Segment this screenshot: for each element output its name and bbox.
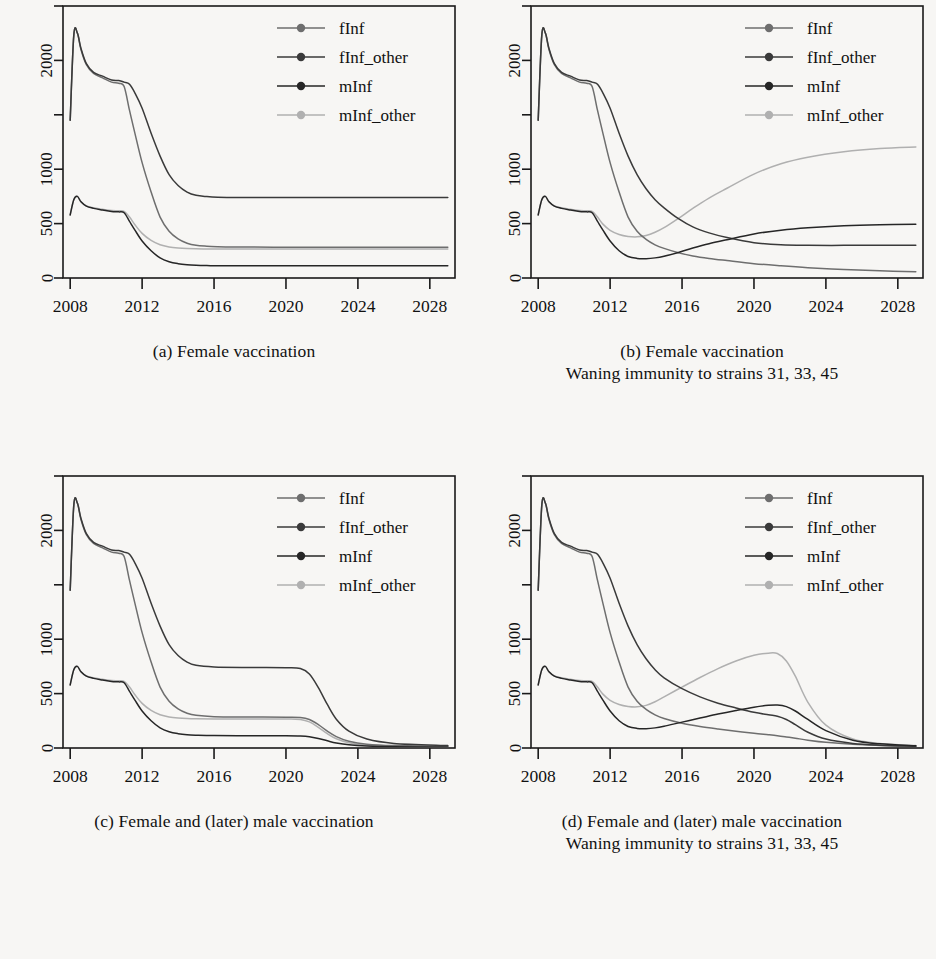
legend-marker-fInf_other [765, 53, 773, 61]
panel-c: 050010002000200820122016202020242028fInf… [0, 470, 468, 959]
y-tick-label: 1000 [38, 152, 57, 186]
y-tick-label: 500 [38, 211, 57, 237]
legend-marker-fInf_other [297, 523, 305, 531]
plot-area-d: 050010002000200820122016202020242028fInf… [468, 470, 936, 810]
y-tick-label: 500 [506, 211, 525, 237]
x-tick-label: 2020 [736, 766, 771, 786]
y-tick-label: 0 [506, 744, 525, 753]
series-line-mInf_other [538, 147, 916, 237]
y-tick-label: 1000 [506, 622, 525, 656]
legend-label-fInf_other: fInf_other [807, 48, 876, 67]
legend-marker-fInf [297, 24, 305, 32]
legend-label-mInf: mInf [339, 547, 372, 566]
legend-marker-mInf_other [297, 581, 305, 589]
legend-label-mInf_other: mInf_other [807, 106, 884, 125]
legend-label-fInf_other: fInf_other [339, 48, 408, 67]
caption-a: (a) Female vaccination [0, 340, 468, 362]
y-tick-label: 2000 [506, 513, 525, 547]
caption-b-line1: (b) Female vaccination [468, 340, 936, 362]
series-line-mInf_other [70, 666, 448, 747]
caption-d-line2: Waning immunity to strains 31, 33, 45 [468, 832, 936, 854]
plot-area-a: 050010002000200820122016202020242028fInf… [0, 0, 468, 340]
legend-marker-fInf [765, 494, 773, 502]
panel-d: 050010002000200820122016202020242028fInf… [468, 470, 936, 959]
legend-marker-mInf [765, 82, 773, 90]
x-tick-label: 2028 [880, 766, 915, 786]
legend-label-mInf: mInf [807, 547, 840, 566]
x-tick-label: 2024 [808, 296, 843, 316]
panel-a: 050010002000200820122016202020242028fInf… [0, 0, 468, 470]
y-tick-label: 0 [38, 274, 57, 283]
x-tick-label: 2028 [412, 296, 447, 316]
x-tick-label: 2016 [665, 296, 700, 316]
x-tick-label: 2008 [521, 766, 556, 786]
y-tick-label: 2000 [38, 513, 57, 547]
caption-d: (d) Female and (later) male vaccination … [468, 810, 936, 855]
series-line-mInf [70, 196, 448, 266]
legend-marker-mInf [765, 552, 773, 560]
x-tick-label: 2012 [593, 766, 628, 786]
legend-label-mInf_other: mInf_other [339, 106, 416, 125]
caption-c: (c) Female and (later) male vaccination [0, 810, 468, 832]
legend-marker-fInf [765, 24, 773, 32]
chart-c: 050010002000200820122016202020242028fInf… [0, 470, 468, 810]
y-tick-label: 2000 [38, 43, 57, 77]
legend-marker-fInf_other [765, 523, 773, 531]
plot-area-c: 050010002000200820122016202020242028fInf… [0, 470, 468, 810]
figure-panel-grid: 050010002000200820122016202020242028fInf… [0, 0, 936, 959]
series-line-mInf [70, 666, 448, 747]
legend-marker-mInf_other [765, 581, 773, 589]
legend-marker-mInf_other [765, 111, 773, 119]
x-tick-label: 2024 [808, 766, 843, 786]
legend-label-fInf: fInf [339, 19, 365, 38]
caption-a-line1: (a) Female vaccination [0, 340, 468, 362]
legend-marker-mInf_other [297, 111, 305, 119]
series-line-mInf_other [70, 196, 448, 249]
plot-area-b: 050010002000200820122016202020242028fInf… [468, 0, 936, 340]
caption-c-line1: (c) Female and (later) male vaccination [0, 810, 468, 832]
legend-marker-mInf [297, 552, 305, 560]
chart-b: 050010002000200820122016202020242028fInf… [468, 0, 936, 340]
chart-d: 050010002000200820122016202020242028fInf… [468, 470, 936, 810]
x-tick-label: 2016 [197, 766, 232, 786]
legend-label-fInf: fInf [807, 19, 833, 38]
series-line-mInf [538, 196, 916, 258]
legend-label-mInf_other: mInf_other [807, 576, 884, 595]
legend-label-fInf_other: fInf_other [339, 518, 408, 537]
x-tick-label: 2008 [53, 296, 88, 316]
x-tick-label: 2016 [665, 766, 700, 786]
x-tick-label: 2012 [125, 766, 160, 786]
y-tick-label: 2000 [506, 43, 525, 77]
x-tick-label: 2008 [53, 766, 88, 786]
y-tick-label: 1000 [38, 622, 57, 656]
legend-label-fInf_other: fInf_other [807, 518, 876, 537]
y-tick-label: 500 [38, 681, 57, 707]
x-tick-label: 2008 [521, 296, 556, 316]
x-tick-label: 2024 [340, 296, 375, 316]
x-tick-label: 2024 [340, 766, 375, 786]
caption-b: (b) Female vaccination Waning immunity t… [468, 340, 936, 385]
y-tick-label: 1000 [506, 152, 525, 186]
legend-label-fInf: fInf [807, 489, 833, 508]
x-tick-label: 2012 [593, 296, 628, 316]
y-tick-label: 0 [38, 744, 57, 753]
x-tick-label: 2020 [268, 296, 303, 316]
x-tick-label: 2012 [125, 296, 160, 316]
x-tick-label: 2020 [736, 296, 771, 316]
series-line-mInf_other [538, 653, 916, 746]
panel-b: 050010002000200820122016202020242028fInf… [468, 0, 936, 470]
legend-marker-mInf [297, 82, 305, 90]
x-tick-label: 2028 [412, 766, 447, 786]
legend-label-mInf_other: mInf_other [339, 576, 416, 595]
caption-b-line2: Waning immunity to strains 31, 33, 45 [468, 362, 936, 384]
legend-marker-fInf_other [297, 53, 305, 61]
legend-marker-fInf [297, 494, 305, 502]
legend-label-mInf: mInf [807, 77, 840, 96]
y-tick-label: 500 [506, 681, 525, 707]
legend-label-mInf: mInf [339, 77, 372, 96]
legend-label-fInf: fInf [339, 489, 365, 508]
x-tick-label: 2020 [268, 766, 303, 786]
x-tick-label: 2028 [880, 296, 915, 316]
chart-a: 050010002000200820122016202020242028fInf… [0, 0, 468, 340]
caption-d-line1: (d) Female and (later) male vaccination [468, 810, 936, 832]
